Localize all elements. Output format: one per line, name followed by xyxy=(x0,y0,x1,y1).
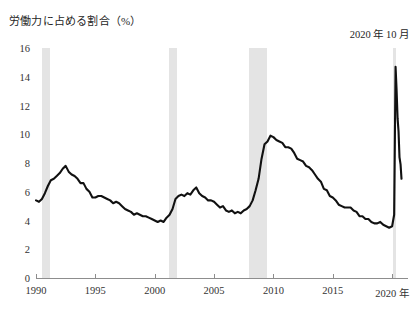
y-axis-tick-label: 16 xyxy=(8,43,30,54)
plot-area xyxy=(36,48,404,278)
unemployment-rate-line xyxy=(36,67,402,228)
annotation-oct-2020: 2020 年 10 月 xyxy=(350,26,409,41)
y-axis-tick-labels: 0246810121416 xyxy=(4,0,30,314)
x-axis-tick-label: 2000 xyxy=(144,285,165,296)
x-axis-tick-labels: 1990199520002005201020152020 年 xyxy=(0,279,417,309)
x-axis-tick-mark xyxy=(214,274,215,279)
x-axis-tick-label: 2020 年 xyxy=(375,285,409,300)
x-axis-tick-mark xyxy=(36,274,37,279)
x-axis-tick-label: 2010 xyxy=(263,285,284,296)
y-axis-tick-label: 10 xyxy=(8,129,30,140)
x-axis-tick-label: 2005 xyxy=(204,285,225,296)
x-axis-tick-mark xyxy=(333,274,334,279)
y-axis-tick-label: 8 xyxy=(8,158,30,169)
x-axis-tick-mark xyxy=(273,274,274,279)
x-axis-tick-label: 1990 xyxy=(26,285,47,296)
x-axis-tick-label: 1995 xyxy=(85,285,106,296)
y-axis-tick-label: 12 xyxy=(8,100,30,111)
x-axis-tick-label: 2015 xyxy=(322,285,343,296)
y-axis-tick-label: 6 xyxy=(8,186,30,197)
x-axis-tick-mark xyxy=(95,274,96,279)
y-axis-tick-label: 4 xyxy=(8,215,30,226)
series-svg xyxy=(36,48,404,278)
x-axis-tick-mark xyxy=(155,274,156,279)
unemployment-rate-chart: 労働力に占める割合（%） 2020 年 10 月 0246810121416 1… xyxy=(0,0,417,314)
y-axis-tick-label: 2 xyxy=(8,244,30,255)
y-axis-tick-label: 14 xyxy=(8,71,30,82)
x-axis-tick-mark xyxy=(392,274,393,279)
